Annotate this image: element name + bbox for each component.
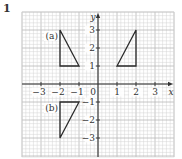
x-tick-label: 3: [152, 87, 158, 97]
y-axis-label: y: [89, 12, 96, 22]
y-tick-label: −1: [82, 97, 95, 107]
y-tick-label: 2: [89, 43, 95, 53]
y-tick-label: −3: [82, 133, 96, 143]
y-tick-label: 3: [89, 25, 95, 35]
y-tick-label: −2: [82, 115, 95, 125]
x-tick-label: −3: [32, 87, 46, 97]
x-tick-label: −1: [70, 87, 83, 97]
label-a: (a): [46, 31, 58, 41]
origin-label: 0: [90, 87, 96, 97]
coordinate-grid: −3−2−1123321−1−2−30yx(a)(b): [0, 0, 182, 159]
label-b: (b): [45, 103, 58, 113]
x-axis-label: x: [168, 87, 173, 97]
y-tick-label: 1: [89, 61, 95, 71]
x-tick-label: 2: [133, 87, 139, 97]
x-axis-arrow-icon: [168, 82, 173, 86]
x-tick-label: 1: [114, 87, 120, 97]
x-tick-label: −2: [51, 87, 64, 97]
